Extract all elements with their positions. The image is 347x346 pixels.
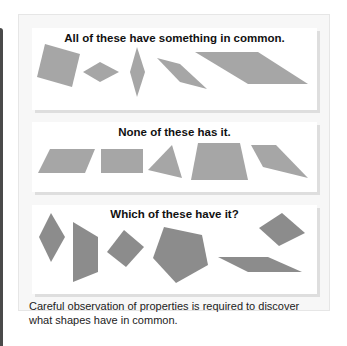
rhombus-shape [39, 213, 65, 262]
caption-line-2: what shapes have in common. [29, 313, 329, 327]
slanted-rhombus-shape [157, 58, 207, 89]
shapes-have-it [37, 44, 308, 97]
tilted-square-shape [37, 44, 80, 87]
shapes-which-have-it [39, 213, 305, 283]
small-rhombus-shape [259, 213, 305, 246]
caption-line-1: Careful observation of properties is req… [29, 299, 329, 313]
trapezoid-shape [191, 143, 248, 180]
shapes-none-have-it [38, 143, 308, 180]
shapes-layer [0, 0, 347, 346]
irregular-quadrilateral-shape [251, 145, 308, 178]
rectangle-shape [101, 149, 143, 173]
figure-caption: Careful observation of properties is req… [29, 299, 329, 327]
small-rhombus-shape [83, 62, 119, 82]
pentagon-shape [153, 227, 208, 283]
parallelogram-shape [38, 149, 95, 173]
trapezoid-vertical-shape [73, 222, 98, 282]
thin-parallelogram-shape [218, 257, 302, 272]
tall-rhombus-shape [130, 47, 145, 97]
tilted-square-shape [107, 230, 144, 267]
long-parallelogram-shape [195, 52, 308, 84]
triangle-shape [148, 145, 182, 178]
